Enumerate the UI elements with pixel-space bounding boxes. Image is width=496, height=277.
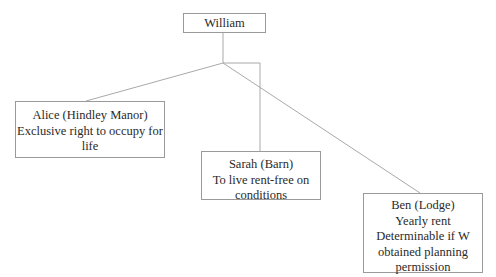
node-sarah-title: Sarah (Barn): [202, 157, 320, 173]
node-sarah: Sarah (Barn) To live rent-free on condit…: [201, 151, 321, 200]
node-ben-desc-1: Yearly rent: [364, 214, 482, 230]
connector-to-alice: [86, 63, 223, 101]
node-alice-title: Alice (Hindley Manor): [16, 108, 164, 124]
node-sarah-desc-2: conditions: [202, 188, 320, 204]
node-ben-desc-4: permission: [364, 260, 482, 276]
node-william: William: [183, 13, 266, 33]
node-ben-title: Ben (Lodge): [364, 198, 482, 214]
node-alice: Alice (Hindley Manor) Exclusive right to…: [15, 101, 165, 158]
node-sarah-desc-1: To live rent-free on: [202, 173, 320, 189]
node-ben: Ben (Lodge) Yearly rent Determinable if …: [363, 193, 483, 273]
node-william-label: William: [184, 14, 265, 32]
node-ben-desc-2: Determinable if W: [364, 229, 482, 245]
node-ben-desc-3: obtained planning: [364, 245, 482, 261]
node-alice-desc-1: Exclusive right to occupy for: [16, 124, 164, 140]
node-alice-desc-2: life: [16, 139, 164, 155]
